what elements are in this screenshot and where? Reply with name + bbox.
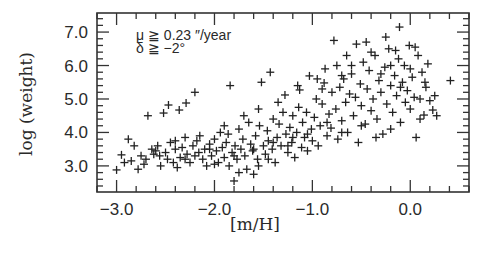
data-point (203, 162, 211, 170)
data-point (225, 162, 233, 170)
data-point (216, 128, 224, 136)
data-point (416, 115, 424, 123)
data-point (305, 72, 313, 80)
data-point (342, 98, 350, 106)
data-point (421, 78, 429, 86)
y-tick-label: 3.0 (64, 157, 88, 176)
data-point (367, 107, 375, 115)
data-point (391, 72, 399, 80)
data-point (431, 92, 439, 100)
data-point (338, 128, 346, 136)
data-point (275, 120, 283, 128)
data-point (356, 80, 364, 88)
data-point (271, 159, 279, 167)
data-point (312, 95, 320, 103)
data-point (359, 58, 367, 66)
data-point (418, 68, 426, 76)
data-point (349, 112, 357, 120)
data-point (117, 151, 125, 159)
data-point (157, 162, 165, 170)
data-point (113, 166, 121, 174)
data-point (377, 88, 385, 96)
data-point (257, 78, 265, 86)
data-point (381, 63, 389, 71)
data-point (446, 77, 454, 85)
data-point (338, 117, 346, 125)
data-point (426, 97, 434, 105)
data-point (313, 75, 321, 83)
data-point (396, 118, 404, 126)
data-point (255, 162, 263, 170)
x-axis-title: [m/H] (230, 214, 280, 234)
data-point (422, 83, 430, 91)
data-point (173, 164, 181, 172)
data-point (220, 154, 228, 162)
data-point (235, 125, 243, 133)
data-point (348, 62, 356, 70)
data-point (387, 62, 395, 70)
data-point (336, 83, 344, 91)
data-point (424, 60, 432, 68)
data-point (220, 122, 228, 130)
data-point (140, 160, 148, 168)
data-point (175, 106, 183, 114)
y-tick-labels: 3.04.05.06.07.0 (64, 23, 88, 176)
data-point (362, 38, 370, 46)
data-point (182, 99, 190, 107)
data-point (282, 130, 290, 138)
data-point (239, 135, 247, 143)
data-point (241, 152, 249, 160)
data-point (369, 95, 377, 103)
data-point (206, 145, 214, 153)
data-point (412, 133, 420, 141)
data-point (433, 112, 441, 120)
y-tick-label: 5.0 (64, 90, 88, 109)
data-point (395, 23, 403, 31)
data-point (323, 118, 331, 126)
data-point (127, 157, 135, 165)
data-point (352, 40, 360, 48)
data-point (365, 67, 373, 75)
data-point (357, 122, 365, 130)
data-point (281, 91, 289, 99)
data-point (293, 128, 301, 136)
data-point (210, 160, 218, 168)
data-point (318, 85, 326, 93)
data-point (178, 144, 186, 152)
data-point (235, 169, 243, 177)
data-point (382, 33, 390, 41)
data-point (144, 112, 152, 120)
data-point (243, 165, 251, 173)
x-tick-label: −2.0 (198, 200, 232, 219)
data-point (224, 130, 232, 138)
data-point (314, 142, 322, 150)
data-point (277, 142, 285, 150)
data-point (321, 65, 329, 73)
data-point (259, 142, 267, 150)
data-point (396, 83, 404, 91)
data-point (354, 138, 362, 146)
y-axis-title: log (weight) (16, 52, 36, 156)
data-point (387, 125, 395, 133)
data-point (124, 135, 132, 143)
data-point (330, 36, 338, 44)
data-point (120, 159, 128, 167)
data-point (263, 127, 271, 135)
data-point (273, 133, 281, 141)
data-point (410, 93, 418, 101)
data-point (327, 124, 335, 132)
data-point (134, 165, 142, 173)
data-point (414, 51, 422, 59)
data-point (328, 88, 336, 96)
data-point (316, 122, 324, 130)
data-point (199, 155, 207, 163)
data-point (411, 43, 419, 51)
data-point (420, 111, 428, 119)
data-point (294, 82, 302, 90)
data-point (333, 62, 341, 70)
data-point (214, 159, 222, 167)
data-point (299, 118, 307, 126)
data-point (307, 125, 315, 133)
data-point (363, 85, 371, 93)
data-point (249, 147, 257, 155)
